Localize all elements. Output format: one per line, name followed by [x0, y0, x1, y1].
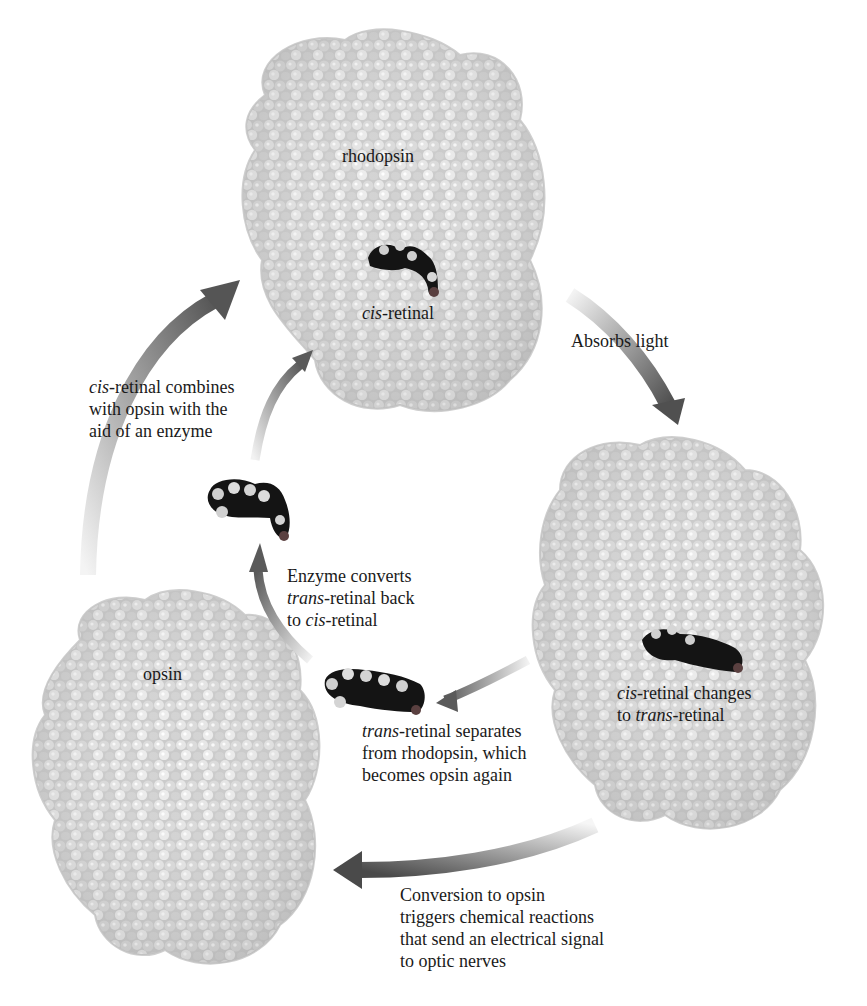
arrow-absorbs-light-icon: [570, 295, 685, 425]
cis-to-trans-label: cis-retinal changes to trans-retinal: [617, 682, 751, 726]
enzyme-converts-label: Enzyme converts trans-retinal back to ci…: [287, 565, 414, 631]
separates-label: trans-retinal separates from rhodopsin, …: [362, 720, 526, 786]
opsin-protein: [33, 590, 320, 963]
opsin-label: opsin: [143, 663, 182, 685]
rhodopsin-protein: [242, 29, 544, 411]
arrow-separates-icon: [436, 660, 528, 712]
combines-label: cis-retinal combines with opsin with the…: [89, 376, 234, 442]
free-cis-retinal-icon: [208, 479, 290, 541]
arrow-inner-combine-icon: [255, 350, 313, 460]
conversion-label: Conversion to opsin triggers chemical re…: [400, 884, 604, 972]
diagram-canvas: [0, 0, 867, 1006]
arrow-conversion-icon: [333, 825, 595, 889]
cis-retinal-label: cis-retinal: [362, 302, 434, 324]
absorbs-light-label: Absorbs light: [571, 330, 669, 352]
free-trans-retinal-icon: [325, 668, 425, 715]
rhodopsin-label: rhodopsin: [342, 145, 414, 167]
